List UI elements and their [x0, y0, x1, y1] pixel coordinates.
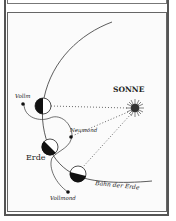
- earth-orbit-path: [42, 22, 152, 182]
- earth-full-moon-bottom: [70, 166, 86, 182]
- orbit-label: Bahn der Erde: [94, 179, 140, 191]
- sun-icon: [126, 99, 144, 117]
- moon-full-bottom: [66, 190, 70, 194]
- new-moon-label: Neumond: [69, 127, 98, 133]
- full-moon-bottom-label: Vollmond: [50, 195, 76, 201]
- moon-new: [69, 135, 73, 139]
- sunline-1: [51, 106, 127, 108]
- orbit-diagram: SONNE Vollm Neumond Erde Bahn der Erde V…: [0, 0, 176, 221]
- full-moon-top-label: Vollm: [15, 93, 31, 99]
- earth-full-moon-top: [35, 98, 51, 114]
- sun-label: SONNE: [113, 85, 145, 94]
- earth-label: Erde: [26, 153, 46, 162]
- moon-full-top: [21, 102, 25, 106]
- sunline-3: [82, 114, 131, 168]
